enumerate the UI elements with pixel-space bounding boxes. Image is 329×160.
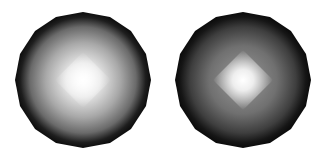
shaded-sphere-left (13, 10, 153, 150)
sphere-left-graphic (13, 10, 153, 150)
shaded-sphere-right (173, 10, 313, 150)
sphere-right-graphic (173, 10, 313, 150)
